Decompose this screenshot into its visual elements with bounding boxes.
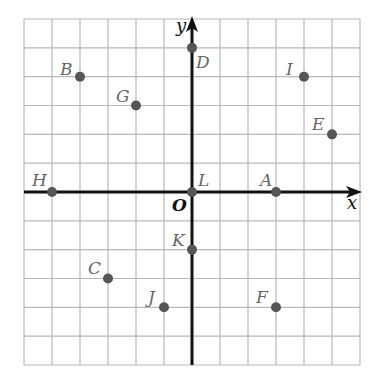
point-label: L (197, 170, 209, 190)
point-d: D (187, 43, 210, 72)
point-marker (103, 273, 113, 283)
point-label: G (116, 86, 130, 106)
point-marker (131, 101, 141, 111)
point-e: E (311, 114, 337, 139)
point-marker (187, 187, 197, 197)
point-marker (327, 129, 337, 139)
point-label: E (311, 114, 325, 134)
point-label: F (255, 287, 269, 307)
y-axis-label: y (175, 15, 187, 36)
point-b: B (59, 59, 85, 82)
point-g: G (116, 86, 141, 111)
point-label: C (88, 258, 101, 278)
point-label: I (285, 59, 293, 79)
point-marker (47, 187, 57, 197)
point-label: B (59, 59, 73, 79)
point-marker (271, 302, 281, 312)
point-marker (159, 302, 169, 312)
point-label: K (171, 230, 186, 250)
point-marker (75, 72, 85, 82)
point-i: I (285, 59, 309, 82)
points-layer: ABCDEFGHIJKL (31, 43, 337, 312)
point-c: C (88, 258, 113, 283)
point-marker (299, 72, 309, 82)
point-j: J (145, 287, 169, 312)
point-label: D (195, 52, 210, 72)
coordinate-plane: x y O ABCDEFGHIJKL (0, 0, 374, 388)
x-axis-label: x (347, 192, 357, 213)
origin-label: O (172, 195, 187, 215)
point-label: H (31, 170, 48, 190)
point-marker (271, 187, 281, 197)
point-f: F (255, 287, 281, 312)
point-label: J (145, 287, 156, 307)
point-label: A (258, 170, 272, 190)
point-marker (187, 245, 197, 255)
